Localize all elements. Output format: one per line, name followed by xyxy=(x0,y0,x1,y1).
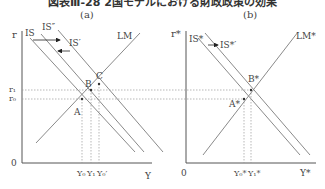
panel-b-x-axis-label: Y* xyxy=(299,168,311,178)
panel-b-point-b-star-label: B* xyxy=(248,74,260,84)
panel-a-is-double-prime-curve xyxy=(41,34,144,152)
panel-b-point-a-star-marker xyxy=(243,98,245,100)
panel-a-r1-label: r₁ xyxy=(9,85,16,94)
panel-b-y0-star-label: Y₀* xyxy=(233,169,247,178)
panel-a: (a) r 0 Y IS IS″ IS′ LM xyxy=(9,9,175,181)
panel-a-origin-label: 0 xyxy=(11,158,17,168)
panel-a-r0-label: r₀ xyxy=(9,94,16,103)
panel-a-y1-label: Y₁ xyxy=(86,169,96,178)
panel-a-is-double-prime-label: IS″ xyxy=(42,22,56,32)
panel-b-lm-star-label: LM* xyxy=(296,31,316,41)
panel-a-point-c-marker xyxy=(98,83,100,85)
panel-b-y1-star-label: Y₁* xyxy=(247,169,261,178)
panel-a-y-axis-label: r xyxy=(12,29,17,40)
panel-b: (b) r* 0 Y* IS* IS*′ LM* A* B* xyxy=(171,9,316,178)
panel-b-origin-label: 0 xyxy=(181,168,187,178)
panel-a-point-c-label: C xyxy=(96,71,103,81)
panel-b-is-star-prime-curve xyxy=(205,33,310,155)
panel-b-is-star-curve xyxy=(198,38,300,155)
panel-a-point-a-label: A xyxy=(73,107,81,117)
panel-a-is-prime-curve xyxy=(58,30,163,152)
diagram-canvas: (a) r 0 Y IS IS″ IS′ LM xyxy=(0,0,325,189)
panel-a-y0-label: Y₀ xyxy=(76,169,86,178)
panel-a-lm-label: LM xyxy=(117,31,132,41)
panel-a-x-axis-label: Y xyxy=(144,171,152,181)
panel-b-point-a-star-label: A* xyxy=(228,99,240,109)
panel-a-point-b-marker xyxy=(90,89,92,91)
panel-a-guide-lines xyxy=(22,84,175,163)
panel-b-y-axis-label: r* xyxy=(171,28,181,39)
panel-a-point-a-marker xyxy=(81,98,83,100)
panel-a-is-prime-label: IS′ xyxy=(69,38,81,48)
panel-a-label: (a) xyxy=(80,9,94,20)
panel-a-y0-prime-label: Y₀′ xyxy=(96,169,107,178)
panel-b-is-star-label: IS* xyxy=(189,34,204,44)
panel-b-point-b-star-marker xyxy=(250,89,252,91)
panel-a-point-b-label: B xyxy=(85,79,92,89)
panel-b-is-star-prime-label: IS*′ xyxy=(220,40,236,50)
panel-b-label: (b) xyxy=(243,9,257,20)
panel-a-is-label: IS xyxy=(25,28,35,38)
